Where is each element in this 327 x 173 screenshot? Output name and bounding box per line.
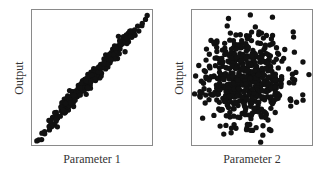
- y-axis-label-right: Output: [172, 61, 187, 94]
- data-point: [211, 40, 216, 45]
- data-point: [272, 84, 277, 89]
- data-point: [253, 125, 258, 130]
- data-point: [234, 54, 239, 59]
- data-point: [261, 35, 266, 40]
- data-point: [252, 60, 257, 65]
- scatter-plot-parameter-2: [191, 9, 313, 146]
- data-point: [207, 65, 212, 70]
- data-point: [85, 85, 90, 90]
- data-point: [259, 59, 264, 64]
- data-point: [263, 43, 268, 48]
- data-point: [245, 68, 250, 73]
- data-point: [199, 78, 204, 83]
- data-point: [267, 127, 272, 132]
- data-point: [258, 139, 263, 144]
- data-point: [89, 72, 94, 77]
- data-point: [241, 100, 246, 105]
- data-point: [273, 77, 278, 82]
- data-point: [206, 97, 211, 102]
- data-point: [230, 74, 235, 79]
- data-point: [233, 126, 238, 131]
- data-point: [255, 40, 260, 45]
- data-point: [101, 60, 106, 65]
- data-point: [222, 41, 227, 46]
- data-point: [239, 94, 244, 99]
- data-point: [238, 32, 243, 37]
- data-point: [203, 92, 208, 97]
- data-point: [230, 63, 235, 68]
- data-point: [292, 50, 297, 55]
- data-point: [252, 105, 257, 110]
- data-point: [241, 90, 246, 95]
- data-point: [263, 66, 268, 71]
- data-point: [193, 73, 198, 78]
- data-point: [207, 52, 212, 57]
- data-point: [275, 50, 280, 55]
- data-point: [225, 23, 230, 28]
- x-axis-label-right: Parameter 2: [223, 152, 281, 167]
- data-point: [211, 91, 216, 96]
- data-point: [291, 80, 296, 85]
- data-point: [221, 131, 226, 136]
- data-point: [253, 24, 258, 29]
- data-point: [259, 88, 264, 93]
- data-point: [260, 132, 265, 137]
- data-point: [224, 113, 229, 118]
- data-point: [113, 46, 118, 51]
- data-point: [229, 46, 234, 51]
- data-point: [228, 30, 233, 35]
- data-point: [52, 110, 57, 115]
- data-point: [145, 13, 150, 18]
- data-point: [215, 76, 220, 81]
- data-point: [229, 125, 234, 130]
- data-point: [107, 52, 112, 57]
- data-point: [260, 94, 265, 99]
- data-point: [256, 100, 261, 105]
- data-point: [281, 56, 286, 61]
- data-point: [223, 123, 228, 128]
- data-point: [217, 65, 222, 70]
- data-point: [270, 33, 275, 38]
- data-point: [109, 57, 114, 62]
- data-point: [48, 118, 53, 123]
- x-axis-label-left: Parameter 1: [63, 152, 121, 167]
- data-point: [84, 78, 89, 83]
- data-point: [222, 99, 227, 104]
- data-point: [245, 122, 250, 127]
- data-point: [63, 101, 68, 106]
- data-point: [243, 112, 248, 117]
- data-point: [216, 106, 221, 111]
- data-point: [260, 123, 265, 128]
- data-point: [47, 127, 52, 132]
- data-point: [300, 59, 305, 64]
- data-point: [203, 57, 208, 62]
- data-point: [248, 116, 253, 121]
- data-point: [42, 131, 47, 136]
- data-point: [288, 103, 293, 108]
- data-point: [246, 45, 251, 50]
- data-point: [300, 98, 305, 103]
- data-point: [232, 100, 237, 105]
- data-point: [247, 76, 252, 81]
- data-point: [249, 53, 254, 58]
- data-point: [214, 97, 219, 102]
- data-point: [212, 56, 217, 61]
- data-point: [68, 100, 73, 105]
- data-point: [276, 65, 281, 70]
- data-point: [61, 108, 66, 113]
- data-point: [226, 16, 231, 21]
- data-point: [204, 46, 209, 51]
- data-point: [214, 45, 219, 50]
- data-point: [233, 46, 238, 51]
- data-point: [78, 85, 83, 90]
- data-point: [192, 91, 197, 96]
- data-point: [196, 63, 201, 68]
- data-point: [71, 93, 76, 98]
- data-point: [263, 115, 268, 120]
- data-point: [256, 72, 261, 77]
- data-point: [274, 96, 279, 101]
- data-point: [252, 67, 257, 72]
- data-point: [259, 106, 264, 111]
- plot-area-right: [192, 10, 312, 145]
- data-point: [223, 89, 228, 94]
